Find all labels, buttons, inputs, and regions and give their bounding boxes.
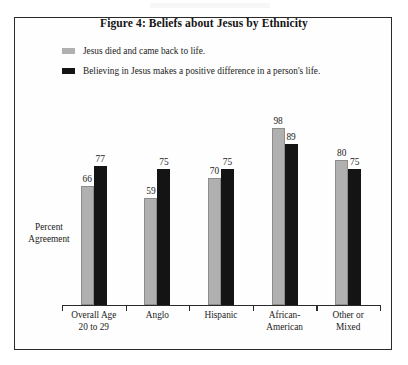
bar-pair: 5975	[126, 100, 190, 305]
legend-label-series-1: Jesus died and came back to life.	[83, 46, 205, 56]
bar-column: 66	[81, 186, 94, 305]
bar-column: 80	[335, 160, 348, 305]
bar	[208, 178, 221, 305]
bar-column: 75	[348, 169, 361, 305]
chart-legend: Jesus died and came back to life. Believ…	[62, 45, 320, 85]
category-label: Other orMixed	[316, 310, 380, 333]
bar	[157, 169, 170, 305]
bar-value-label: 66	[83, 175, 92, 185]
bar	[348, 169, 361, 305]
bar	[94, 166, 107, 305]
category-label-line: American	[254, 322, 316, 334]
bar-value-label: 75	[159, 158, 168, 168]
category-label-line: African-	[254, 310, 316, 322]
bar-pair: 6677	[62, 100, 126, 305]
x-axis-line	[62, 305, 380, 306]
bar-column: 70	[208, 178, 221, 305]
category-label-line: Overall Age	[63, 310, 125, 322]
category-labels: Overall Age20 to 29AngloHispanicAfrican-…	[62, 310, 380, 333]
axis-tick	[380, 305, 381, 311]
category-label: Overall Age20 to 29	[62, 310, 126, 333]
bar-value-label: 59	[146, 187, 155, 197]
bar-column: 89	[285, 144, 298, 305]
category-label-line: Anglo	[127, 310, 189, 322]
bar-column: 77	[94, 166, 107, 305]
bar	[81, 186, 94, 305]
category-label-line: Mixed	[317, 322, 379, 334]
legend-label-series-2: Believing in Jesus makes a positive diff…	[83, 66, 320, 76]
bar	[272, 128, 285, 305]
bar-pair: 9889	[253, 100, 317, 305]
legend-item-series-1: Jesus died and came back to life.	[62, 45, 320, 56]
bar-value-label: 75	[223, 158, 232, 168]
legend-swatch-dark-icon	[62, 68, 75, 74]
bar-group: 6677	[62, 100, 126, 305]
bar-group: 5975	[126, 100, 190, 305]
bar-pair: 8075	[316, 100, 380, 305]
bar-groups: 66775975707598898075	[62, 100, 380, 305]
bar-group: 9889	[253, 100, 317, 305]
legend-item-series-2: Believing in Jesus makes a positive diff…	[62, 65, 320, 76]
bar	[285, 144, 298, 305]
category-label-line: Other or	[317, 310, 379, 322]
bar-group: 8075	[316, 100, 380, 305]
bar-value-label: 70	[210, 167, 219, 177]
category-label: African-American	[253, 310, 317, 333]
category-label-line: 20 to 29	[63, 322, 125, 334]
bar	[335, 160, 348, 305]
bar-column: 75	[157, 169, 170, 305]
bar	[144, 198, 157, 305]
bar-value-label: 75	[350, 158, 359, 168]
bar-value-label: 77	[96, 155, 105, 165]
bar-group: 7075	[189, 100, 253, 305]
chart-title: Figure 4: Beliefs about Jesus by Ethnici…	[0, 17, 408, 29]
bar-pair: 7075	[189, 100, 253, 305]
bar	[221, 169, 234, 305]
bar-value-label: 80	[337, 149, 346, 159]
bar-value-label: 98	[273, 117, 282, 127]
bar-column: 59	[144, 198, 157, 305]
bar-column: 75	[221, 169, 234, 305]
bar-value-label: 89	[286, 133, 295, 143]
scan-artifact	[150, 3, 270, 8]
category-label: Hispanic	[189, 310, 253, 333]
bar-column: 98	[272, 128, 285, 305]
legend-swatch-light-icon	[62, 48, 75, 54]
category-label-line: Hispanic	[190, 310, 252, 322]
category-label: Anglo	[126, 310, 190, 333]
